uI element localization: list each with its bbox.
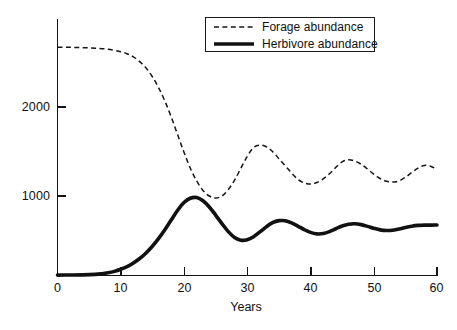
legend-swatch-solid-line [213, 38, 255, 50]
series-line-forage-abundance [58, 47, 438, 198]
x-tick-label-60: 60 [422, 281, 451, 295]
chart-figure: 2000 1000 0 10 20 30 40 50 60 Years Fora… [0, 0, 457, 330]
legend-item-forage-abundance: Forage abundance [206, 18, 374, 35]
y-tick-label-1000: 1000 [8, 189, 50, 203]
x-tick-label-50: 50 [360, 281, 389, 295]
y-tick-label-2000: 2000 [8, 100, 50, 114]
legend: Forage abundance Herbivore abundance [205, 17, 375, 52]
x-axis-title: Years [210, 300, 282, 314]
legend-item-herbivore-abundance: Herbivore abundance [206, 35, 374, 52]
x-tick-label-10: 10 [106, 281, 135, 295]
legend-label-forage-abundance: Forage abundance [262, 20, 364, 34]
series-line-herbivore-abundance [58, 197, 438, 275]
y-tick-marks [58, 107, 67, 196]
x-tick-label-40: 40 [296, 281, 325, 295]
legend-swatch-dashed-line [213, 21, 255, 33]
x-tick-label-20: 20 [170, 281, 199, 295]
x-tick-label-30: 30 [233, 281, 262, 295]
x-tick-label-0: 0 [43, 281, 72, 295]
legend-label-herbivore-abundance: Herbivore abundance [262, 37, 378, 51]
